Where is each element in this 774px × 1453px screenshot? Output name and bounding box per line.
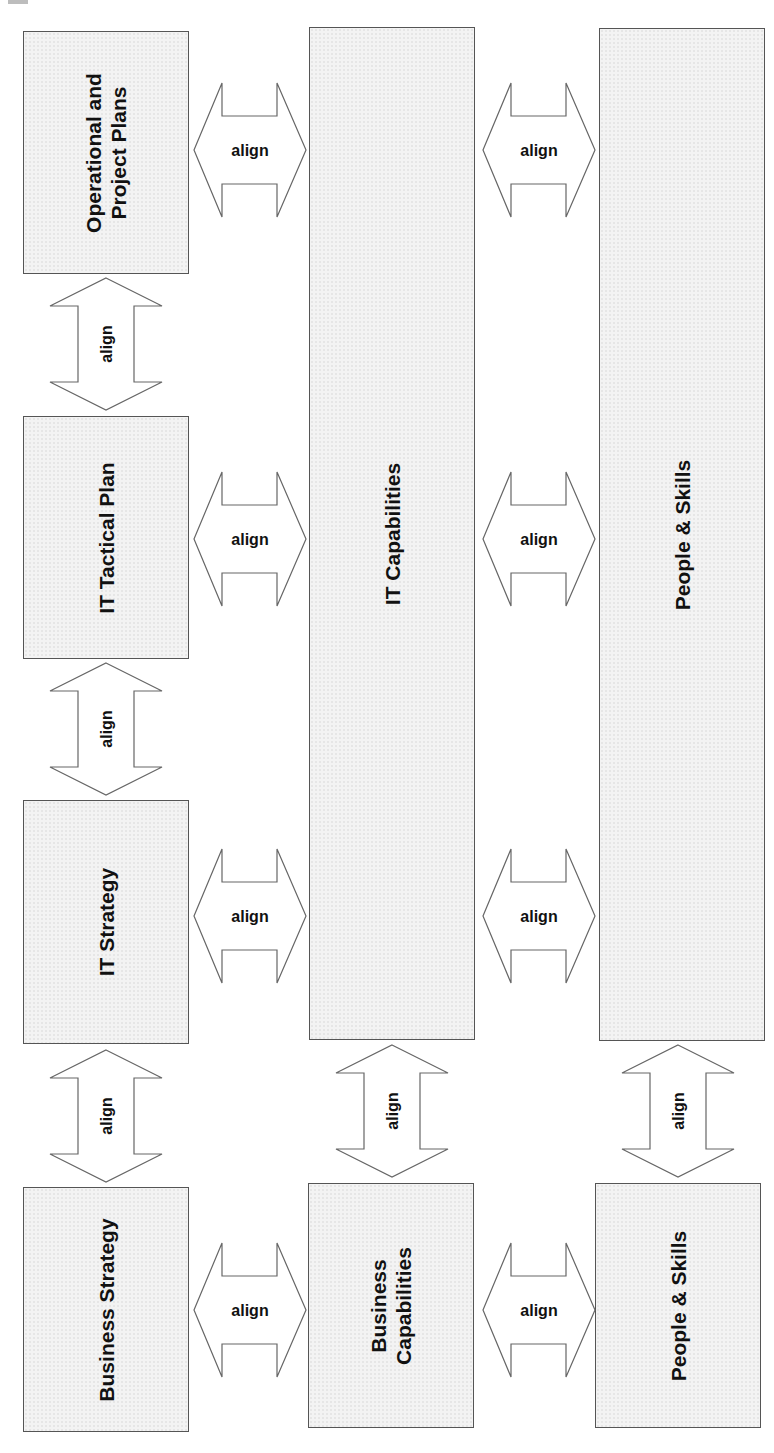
align-arrow-itcap-people-2: align (483, 472, 595, 606)
svg-text:align: align (231, 908, 268, 925)
svg-text:align: align (231, 531, 268, 548)
svg-text:align: align (520, 531, 557, 548)
align-arrow-itcap-people-3: align (483, 849, 595, 983)
svg-text:align: align (231, 142, 268, 159)
align-arrows: align align align align align align alig… (0, 0, 774, 1453)
align-arrow-itcap-people-1: align (483, 83, 595, 217)
align-arrow-bizcap-people: align (483, 1243, 595, 1377)
align-arrow-people-people: align (622, 1045, 734, 1177)
svg-text:align: align (231, 1302, 268, 1319)
align-arrow-ops-tactical: align (50, 278, 162, 410)
svg-text:align: align (98, 325, 115, 362)
svg-text:align: align (520, 908, 557, 925)
align-arrow-itcap-bizcap: align (336, 1045, 448, 1177)
align-arrow-ops-itcap: align (194, 83, 306, 217)
svg-text:align: align (384, 1092, 401, 1129)
align-arrow-tactical-itcap: align (194, 472, 306, 606)
align-arrow-bizstrategy-bizcap: align (194, 1243, 306, 1377)
align-arrow-tactical-strategy: align (50, 663, 162, 795)
svg-text:align: align (670, 1092, 687, 1129)
svg-text:align: align (520, 142, 557, 159)
svg-text:align: align (98, 710, 115, 747)
align-arrow-strategy-itcap: align (194, 849, 306, 983)
svg-text:align: align (98, 1097, 115, 1134)
svg-text:align: align (520, 1302, 557, 1319)
align-arrow-strategy-bizstrategy: align (50, 1050, 162, 1182)
